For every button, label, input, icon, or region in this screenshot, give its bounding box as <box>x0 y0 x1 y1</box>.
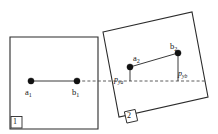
label-b1-sub: 1 <box>76 92 79 98</box>
box-1-tag-label: 1 <box>13 118 17 126</box>
label-pya-sub: ya <box>118 79 123 85</box>
label-b2-sub: 2 <box>174 46 177 52</box>
label-point-a1: a1 <box>25 88 32 97</box>
label-a2-sub: 2 <box>137 58 140 64</box>
figure-canvas <box>0 0 218 134</box>
point-b1 <box>74 78 80 84</box>
box-1-outline <box>10 37 98 129</box>
figure-container: a1 b1 a2 b2 pya pyb 1 2 <box>0 0 218 134</box>
box-2-outline <box>103 12 208 117</box>
label-a1-sub: 1 <box>29 92 32 98</box>
label-pyb-sub: yb <box>182 73 187 79</box>
box-2-tag-label: 2 <box>127 112 131 120</box>
label-point-b1: b1 <box>72 88 79 97</box>
label-projection-pya: pya <box>114 76 123 84</box>
point-a1 <box>28 78 34 84</box>
point-a2 <box>127 64 133 70</box>
label-point-a2: a2 <box>133 54 140 63</box>
label-projection-pyb: pyb <box>178 70 187 78</box>
label-point-b2: b2 <box>170 42 177 51</box>
